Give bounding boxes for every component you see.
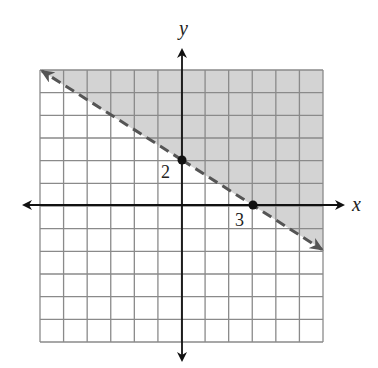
y-intercept-point: [178, 156, 187, 165]
x-intercept-label: 3: [235, 210, 244, 230]
x-intercept-point: [249, 201, 258, 210]
inequality-graph: y x 2 3: [0, 0, 378, 368]
y-axis-label: y: [177, 17, 188, 40]
x-axis-label: x: [351, 193, 361, 215]
y-intercept-label: 2: [161, 162, 170, 182]
